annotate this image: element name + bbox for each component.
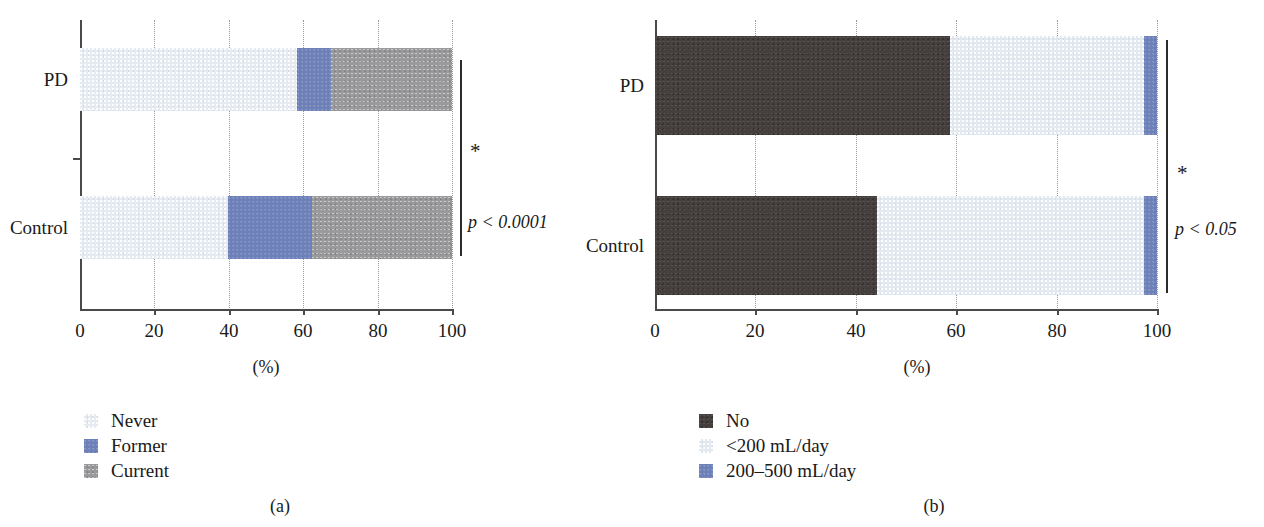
legend-label-lt200-ml-day: <200 mL/day [726, 435, 829, 457]
category-label-pd: PD [0, 69, 68, 91]
xtick-b-20 [755, 309, 757, 315]
legend-swatch-lt200-ml-day [699, 439, 713, 453]
legend-label-current: Current [111, 460, 169, 482]
significance-pvalue-b: p < 0.05 [1175, 219, 1237, 240]
category-label-control: Control [572, 235, 644, 257]
x-axis-b [655, 309, 1158, 311]
significance-star-b: * [1177, 163, 1188, 184]
x-axis-title-b: (%) [877, 357, 957, 378]
legend-label-never: Never [111, 410, 157, 432]
xtick-a-0 [80, 304, 82, 310]
bar-segment-lt200-ml-day [877, 196, 1145, 295]
xtick-a-100 [452, 309, 454, 315]
bar-b-pd [655, 36, 1157, 135]
xtick-a-40 [229, 309, 231, 315]
xtick-label-b-60: 60 [926, 320, 986, 342]
xtick-label-a-0: 0 [50, 320, 110, 342]
bar-a-control [80, 196, 452, 259]
category-label-control: Control [0, 217, 68, 239]
xtick-label-b-100: 100 [1127, 320, 1187, 342]
xtick-label-b-80: 80 [1027, 320, 1087, 342]
legend-swatch-never [84, 414, 98, 428]
xtick-a-20 [154, 309, 156, 315]
panel-b: PD Control 0 20 40 60 80 100 (%) * p < 0… [632, 0, 1264, 527]
xtick-label-b-0: 0 [625, 320, 685, 342]
legend-item-former: Former [84, 433, 169, 458]
xtick-b-60 [956, 309, 958, 315]
bar-segment-no [655, 36, 950, 135]
xtick-label-a-80: 80 [348, 320, 408, 342]
significance-star-a: * [470, 141, 481, 162]
xtick-label-a-40: 40 [199, 320, 259, 342]
category-label-pd: PD [572, 75, 644, 97]
xtick-label-a-20: 20 [124, 320, 184, 342]
legend-swatch-no [699, 414, 713, 428]
xtick-label-a-60: 60 [273, 320, 333, 342]
bar-segment-never [80, 196, 228, 259]
bar-b-control [655, 196, 1157, 295]
x-axis-a [80, 309, 453, 311]
panel-a: PD Control 0 20 40 60 80 100 (%) * p < 0… [0, 0, 632, 527]
legend-b: No <200 mL/day 200–500 mL/day [699, 408, 856, 483]
bar-segment-200-500-ml-day [1144, 36, 1157, 135]
bar-segment-200-500-ml-day [1144, 196, 1157, 295]
legend-label-200-500-ml-day: 200–500 mL/day [726, 460, 856, 482]
significance-bracket-a [460, 60, 462, 256]
xtick-b-80 [1057, 309, 1059, 315]
bar-segment-never [80, 48, 297, 111]
xtick-b-0 [655, 304, 657, 310]
xtick-label-b-40: 40 [826, 320, 886, 342]
xtick-a-80 [378, 309, 380, 315]
legend-swatch-200-500-ml-day [699, 464, 713, 478]
legend-swatch-current [84, 464, 98, 478]
bar-segment-current [312, 196, 452, 259]
legend-label-former: Former [111, 435, 167, 457]
xtick-label-b-20: 20 [725, 320, 785, 342]
panel-caption-b: (b) [894, 496, 974, 517]
legend-swatch-former [84, 439, 98, 453]
significance-pvalue-a: p < 0.0001 [468, 212, 548, 233]
bar-segment-lt200-ml-day [950, 36, 1144, 135]
y-axis-midtick-a [73, 158, 81, 160]
bar-a-pd [80, 48, 452, 111]
legend-a: Never Former Current [84, 408, 169, 483]
bar-segment-former [297, 48, 331, 111]
legend-item-never: Never [84, 408, 169, 433]
xtick-label-a-100: 100 [422, 320, 482, 342]
significance-bracket-b [1166, 40, 1168, 293]
xtick-b-100 [1157, 309, 1159, 315]
legend-item-200-500-ml-day: 200–500 mL/day [699, 458, 856, 483]
bar-segment-former [228, 196, 312, 259]
panel-caption-a: (a) [240, 496, 320, 517]
bar-segment-no [655, 196, 877, 295]
legend-item-lt200-ml-day: <200 mL/day [699, 433, 856, 458]
legend-item-no: No [699, 408, 856, 433]
xtick-a-60 [303, 309, 305, 315]
gridline-b-100 [1157, 20, 1159, 310]
xtick-b-40 [856, 309, 858, 315]
legend-item-current: Current [84, 458, 169, 483]
figure-two-panel-stacked-bars: PD Control 0 20 40 60 80 100 (%) * p < 0… [0, 0, 1264, 527]
legend-label-no: No [726, 410, 749, 432]
x-axis-title-a: (%) [226, 357, 306, 378]
gridline-a-100 [452, 20, 454, 310]
bar-segment-current [331, 48, 452, 111]
